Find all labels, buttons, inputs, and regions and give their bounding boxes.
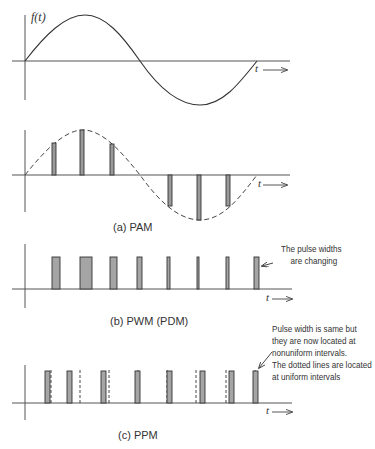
pwm-pulses bbox=[52, 257, 259, 289]
pulse bbox=[110, 144, 114, 175]
note-line: The dotted lines are located bbox=[272, 359, 372, 371]
note-line: at uniform intervals bbox=[272, 371, 372, 383]
note-line: The pulse widths bbox=[281, 243, 342, 255]
note-line: they are now located at bbox=[272, 335, 372, 347]
pulse bbox=[52, 257, 60, 289]
pam-plot bbox=[12, 130, 290, 220]
sine-plot bbox=[12, 15, 290, 105]
pulse bbox=[135, 371, 140, 403]
pulse bbox=[45, 371, 50, 403]
pulse bbox=[197, 257, 199, 289]
ppm-caption: (c) PPM bbox=[118, 429, 158, 441]
pwm-note: The pulse widths are changing bbox=[281, 243, 342, 267]
x-axis-label: t bbox=[266, 404, 269, 416]
x-axis-label: t bbox=[258, 177, 261, 189]
pulse bbox=[229, 371, 234, 403]
pulse bbox=[226, 175, 230, 206]
pulse bbox=[80, 257, 92, 289]
note-line: nonuniform intervals. bbox=[272, 347, 372, 359]
pointer-arrow-icon bbox=[262, 263, 273, 266]
pulse bbox=[137, 257, 142, 289]
pulse bbox=[226, 257, 229, 289]
x-axis-label: t bbox=[266, 291, 269, 303]
pulse bbox=[110, 257, 117, 289]
uniform-interval-lines bbox=[51, 370, 255, 403]
pwm-caption: (b) PWM (PDM) bbox=[110, 315, 188, 327]
pwm-plot bbox=[12, 244, 292, 308]
pulse bbox=[67, 371, 72, 403]
pulse bbox=[197, 175, 201, 220]
ppm-note: Pulse width is same but they are now loc… bbox=[272, 323, 372, 383]
ppm-plot bbox=[12, 352, 292, 420]
note-line: Pulse width is same but bbox=[272, 323, 372, 335]
pulse bbox=[167, 257, 170, 289]
pulse bbox=[253, 371, 258, 403]
pulse bbox=[52, 143, 56, 175]
pointer-arrow-icon bbox=[259, 352, 272, 368]
pulse bbox=[168, 175, 172, 206]
pulse bbox=[101, 371, 106, 403]
pulse bbox=[167, 371, 172, 403]
pulse bbox=[254, 257, 259, 289]
pam-caption: (a) PAM bbox=[113, 221, 153, 233]
x-axis-label: t bbox=[255, 62, 258, 74]
sine-wave bbox=[25, 15, 257, 105]
note-line: are changing bbox=[281, 255, 342, 267]
pulse bbox=[200, 371, 205, 403]
pulse bbox=[80, 130, 84, 175]
y-axis-label: f(t) bbox=[31, 10, 46, 25]
